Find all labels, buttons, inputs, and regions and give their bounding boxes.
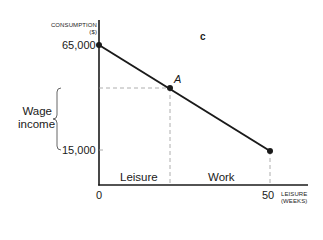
- y-axis-label-line1: CONSUMPTION: [48, 22, 97, 28]
- point-a-label: A: [174, 74, 181, 85]
- panel-label: c: [200, 32, 206, 42]
- y-axis-label-line2: ($): [48, 29, 97, 35]
- segment-work-label: Work: [208, 172, 235, 184]
- point-end: [267, 148, 273, 154]
- y-tick-label-15000: 15,000: [62, 145, 96, 156]
- x-axis-label: LEISURE (WEEKS): [281, 191, 307, 204]
- point-a: [167, 85, 173, 91]
- y-axis-label: CONSUMPTION ($): [48, 22, 97, 35]
- brace-label-line2: income: [18, 119, 52, 131]
- budget-line: [99, 45, 270, 151]
- x-tick-label-50: 50: [262, 190, 274, 201]
- point-top: [96, 42, 102, 48]
- brace-label: Wage income: [18, 106, 52, 130]
- segment-leisure-label: Leisure: [120, 172, 158, 184]
- x-tick-label-0: 0: [96, 190, 102, 201]
- brace-label-line1: Wage: [18, 106, 52, 118]
- x-axis-label-line1: LEISURE: [281, 191, 307, 197]
- x-axis-label-line2: (WEEKS): [281, 198, 307, 204]
- y-tick-label-65000: 65,000: [62, 40, 96, 51]
